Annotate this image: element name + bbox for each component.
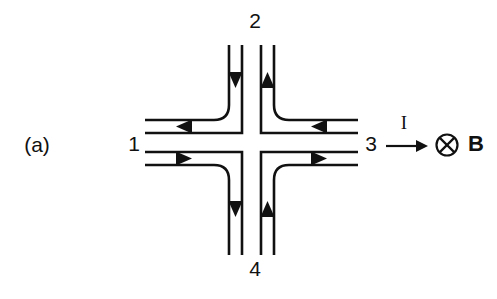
flow-arrow-left-inflow-right-icon [176, 152, 192, 166]
terminal-label-3: 3 [365, 132, 377, 155]
flow-arrow-top-outflow-up-icon [261, 72, 275, 88]
channel-bottom-left-elbow [145, 152, 242, 255]
flow-arrow-bottom-outflow-down-icon [229, 201, 243, 217]
terminal-label-1: 1 [128, 132, 140, 155]
channel-wall-outer-top-left [145, 45, 229, 120]
channel-top-left-elbow [145, 45, 242, 133]
cross-junction-diagram: 2 4 1 3 (a) I B [0, 0, 497, 299]
channel-wall-outer-bottom-left [145, 165, 229, 255]
terminal-label-2: 2 [249, 9, 261, 32]
current-label: I [401, 112, 407, 133]
channel-wall-outer-bottom-right [274, 165, 358, 255]
flow-arrow-top-inflow-down-icon [229, 72, 243, 88]
field-label-B: B [468, 131, 484, 156]
flow-arrow-bottom-inflow-up-icon [261, 201, 275, 217]
current-direction-indicator: I [386, 112, 428, 152]
panel-label: (a) [24, 133, 50, 156]
channel-wall-inner-bottom-left [145, 152, 242, 255]
channel-wall-outer-top-right [274, 45, 358, 120]
flow-arrow-left-outflow-left-icon [176, 120, 192, 134]
flow-arrow-right-inflow-left-icon [311, 120, 327, 134]
terminal-label-4: 4 [249, 257, 261, 280]
flow-arrow-right-outflow-right-icon [311, 152, 327, 166]
circle-cross-icon [437, 135, 458, 156]
current-arrow-head-icon [416, 140, 428, 152]
channel-bottom-right-elbow [261, 152, 358, 255]
magnetic-field-indicator: B [437, 131, 484, 156]
channel-top-right-elbow [261, 45, 358, 133]
figure-container: 2 4 1 3 (a) I B [0, 0, 497, 299]
channel-wall-inner-bottom-right [261, 152, 358, 255]
